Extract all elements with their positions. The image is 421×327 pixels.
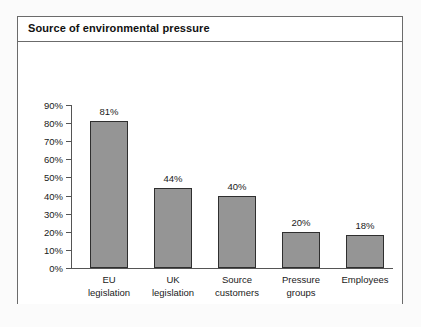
- y-axis-tick: [66, 141, 71, 142]
- y-axis-tick-label: 0%: [49, 263, 63, 274]
- bar-value-label: 81%: [99, 106, 118, 117]
- y-axis-tick: [66, 123, 71, 124]
- x-axis-category-line: Employees: [322, 274, 408, 287]
- chart-panel: Source of environmental pressure 0%10%20…: [17, 16, 403, 304]
- y-axis-tick-label: 90%: [44, 100, 63, 111]
- y-axis-line: [71, 105, 72, 269]
- y-axis-tick-label: 50%: [44, 172, 63, 183]
- y-axis-tick-label: 10%: [44, 244, 63, 255]
- bar[interactable]: [282, 232, 320, 268]
- chart-body: 0%10%20%30%40%50%60%70%80%90% 81%44%40%2…: [18, 42, 402, 304]
- bar[interactable]: [90, 121, 128, 268]
- bar[interactable]: [346, 235, 384, 268]
- y-axis-tick-label: 20%: [44, 226, 63, 237]
- bar-value-label: 18%: [355, 220, 374, 231]
- x-axis-line: [71, 268, 393, 269]
- bar-value-label: 20%: [291, 217, 310, 228]
- x-axis-category-label: Employees: [322, 274, 408, 287]
- y-axis-tick: [66, 177, 71, 178]
- bar[interactable]: [218, 196, 256, 268]
- y-axis-tick: [66, 250, 71, 251]
- plot-area: 0%10%20%30%40%50%60%70%80%90% 81%44%40%2…: [71, 42, 401, 304]
- y-axis-tick: [66, 232, 71, 233]
- x-axis-category-line: groups: [258, 287, 344, 300]
- y-axis-tick-label: 60%: [44, 154, 63, 165]
- y-axis-tick: [66, 214, 71, 215]
- y-axis-tick-label: 70%: [44, 136, 63, 147]
- chart-title: Source of environmental pressure: [28, 22, 210, 34]
- bar-value-label: 44%: [163, 173, 182, 184]
- y-axis-tick-label: 40%: [44, 190, 63, 201]
- y-axis-tick: [66, 268, 71, 269]
- bar-value-label: 40%: [227, 181, 246, 192]
- y-axis-tick: [66, 159, 71, 160]
- y-axis-tick-label: 80%: [44, 118, 63, 129]
- y-axis-tick-label: 30%: [44, 208, 63, 219]
- y-axis-tick: [66, 196, 71, 197]
- bar[interactable]: [154, 188, 192, 268]
- chart-title-bar: Source of environmental pressure: [18, 17, 402, 42]
- y-axis-tick: [66, 105, 71, 106]
